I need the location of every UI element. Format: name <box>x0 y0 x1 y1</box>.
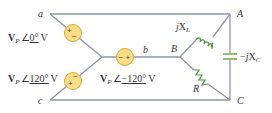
capacitor-AC <box>223 14 237 100</box>
wire-inductor-to-A <box>213 14 230 37</box>
minus-sign: − <box>73 72 78 81</box>
plus-sign: + <box>68 79 73 88</box>
node-label-b: b <box>143 44 148 55</box>
wire-B-to-resistor <box>180 57 194 70</box>
source-b-label: VP∠−120°V <box>100 73 156 86</box>
node-label-C: C <box>237 95 244 106</box>
circuit-diagram: + − − + − + a c b A B C jXL −j <box>0 0 272 113</box>
capacitor-label: −jXC <box>240 51 261 64</box>
wire-B-to-inductor <box>180 40 196 57</box>
resistor-label: R <box>192 83 199 94</box>
voltage-source-a: + − <box>65 25 82 42</box>
inductor-label: jXL <box>174 21 190 34</box>
source-a-label: VP∠0°V <box>8 32 49 45</box>
inductor-AB <box>180 14 230 57</box>
wire-resistor-to-C <box>208 84 230 100</box>
plus-sign: + <box>126 53 131 62</box>
node-label-A: A <box>236 8 244 19</box>
minus-sign: − <box>119 53 124 62</box>
voltage-source-c: − + <box>65 72 82 90</box>
minus-sign: − <box>72 32 77 41</box>
source-c-label: VP∠120°V <box>8 73 59 86</box>
voltage-source-b: − + <box>117 49 134 66</box>
inductor-coil-icon <box>196 38 213 48</box>
node-label-c: c <box>38 95 43 106</box>
node-label-a: a <box>38 8 43 19</box>
resistor-BC <box>180 57 230 100</box>
node-label-B: B <box>171 43 177 54</box>
